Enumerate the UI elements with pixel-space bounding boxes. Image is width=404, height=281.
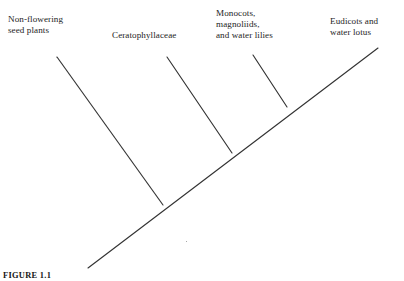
taxon-label-ceratophyllaceae: Ceratophyllaceae — [112, 30, 176, 41]
cladogram-svg — [0, 0, 404, 281]
tree-branches — [57, 48, 378, 268]
paper-speck — [186, 241, 187, 242]
taxon-label-line: Monocots, — [216, 8, 273, 19]
trunk-line — [88, 48, 378, 268]
taxon-label-monocots-magnoliids-water-lilies: Monocots, magnoliids, and water lilies — [216, 8, 273, 42]
taxon-label-line: magnoliids, — [216, 19, 273, 30]
taxon-label-line: and water lilies — [216, 30, 273, 41]
taxon-label-line: seed plants — [8, 25, 63, 36]
taxon-label-non-flowering-seed-plants: Non-flowering seed plants — [8, 14, 63, 36]
cladogram-figure: Non-flowering seed plants Ceratophyllace… — [0, 0, 404, 281]
taxon-label-line: Eudicots and — [330, 16, 378, 27]
taxon-label-line: Ceratophyllaceae — [112, 30, 176, 41]
taxon-label-eudicots-water-lotus: Eudicots and water lotus — [330, 16, 378, 38]
branch-monocots-magnoliids-water-lilies — [253, 55, 287, 107]
figure-caption: FIGURE 1.1 — [3, 271, 51, 280]
branch-non-flowering-seed-plants — [57, 57, 163, 205]
taxon-label-line: Non-flowering — [8, 14, 63, 25]
taxon-label-line: water lotus — [330, 27, 378, 38]
branch-ceratophyllaceae — [167, 57, 232, 153]
